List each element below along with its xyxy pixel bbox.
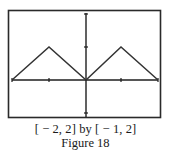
graph-plot xyxy=(0,0,171,122)
viewing-window-caption: [ − 2, 2] by [ − 1, 2] xyxy=(0,122,171,136)
viewing-window-frame xyxy=(9,11,161,118)
figure-title: Figure 18 xyxy=(0,136,171,150)
figure: [ − 2, 2] by [ − 1, 2] Figure 18 xyxy=(0,0,171,152)
function-curve xyxy=(12,47,158,80)
